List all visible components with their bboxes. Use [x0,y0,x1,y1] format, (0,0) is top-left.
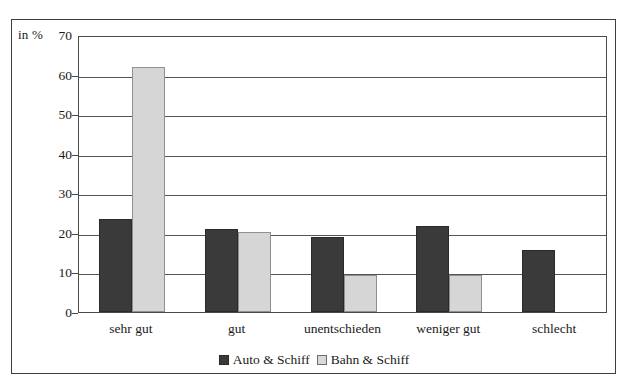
x-tick-label: weniger gut [395,321,501,337]
y-tick-label: 50 [8,108,72,121]
y-tick-label: 10 [8,266,72,279]
bar [132,67,165,312]
y-tick-mark [72,194,78,195]
y-tick-label: 70 [8,29,72,42]
y-tick-label: 60 [8,69,72,82]
y-tick-mark [72,115,78,116]
y-tick-label: 0 [8,306,72,319]
bar [311,237,344,312]
bar [449,275,482,312]
chart-figure: in % 010203040506070 sehr gutgutunentsch… [0,0,628,392]
y-tick-label: 30 [8,187,72,200]
y-tick-mark [72,234,78,235]
bar [99,219,132,312]
x-tick-label: schlecht [501,321,607,337]
y-tick-label: 40 [8,148,72,161]
bar [238,232,271,312]
legend-swatch-icon [219,355,229,365]
plot-inner [79,37,606,312]
y-tick-mark [72,273,78,274]
bar [205,229,238,312]
legend-label: Bahn & Schiff [331,352,410,368]
legend-swatch-icon [317,355,327,365]
legend-entry: Bahn & Schiff [317,352,410,368]
bar [416,226,449,312]
bar [344,275,377,312]
x-tick-label: gut [184,321,290,337]
plot-area [78,36,607,313]
bar [522,250,555,312]
y-tick-mark [72,155,78,156]
legend-entry: Auto & Schiff [219,352,310,368]
legend-label: Auto & Schiff [233,352,310,368]
x-tick-label: unentschieden [290,321,396,337]
chart-legend: Auto & SchiffBahn & Schiff [0,352,628,368]
y-tick-label: 20 [8,227,72,240]
y-tick-mark [72,313,78,314]
y-tick-mark [72,76,78,77]
x-tick-label: sehr gut [78,321,184,337]
